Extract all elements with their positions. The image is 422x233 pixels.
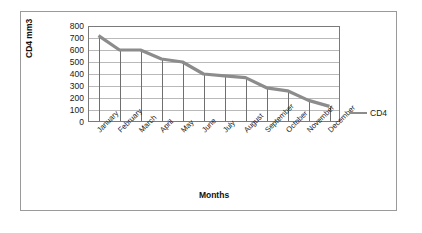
legend-swatch-cd4 bbox=[350, 112, 367, 114]
y-tick-label: 0 bbox=[79, 118, 84, 126]
x-axis-title: Months bbox=[88, 190, 340, 200]
y-tick-label: 800 bbox=[70, 22, 84, 30]
y-axis-title: CD4 mm3 bbox=[24, 44, 34, 58]
chart-figure: CD4 mm3 0100200300400500600700800 Januar… bbox=[0, 0, 422, 233]
y-tick-label: 600 bbox=[70, 46, 84, 54]
legend: CD4 bbox=[350, 108, 387, 118]
y-tick-label: 300 bbox=[70, 82, 84, 90]
series-line-cd4 bbox=[88, 26, 340, 122]
y-tick-label: 100 bbox=[70, 106, 84, 114]
y-tick-label: 700 bbox=[70, 34, 84, 42]
legend-label-cd4: CD4 bbox=[370, 108, 387, 118]
y-tick-label: 500 bbox=[70, 58, 84, 66]
y-axis-tick-labels: 0100200300400500600700800 bbox=[56, 0, 84, 233]
plot-area bbox=[88, 26, 340, 122]
y-tick-label: 200 bbox=[70, 94, 84, 102]
y-tick-label: 400 bbox=[70, 70, 84, 78]
